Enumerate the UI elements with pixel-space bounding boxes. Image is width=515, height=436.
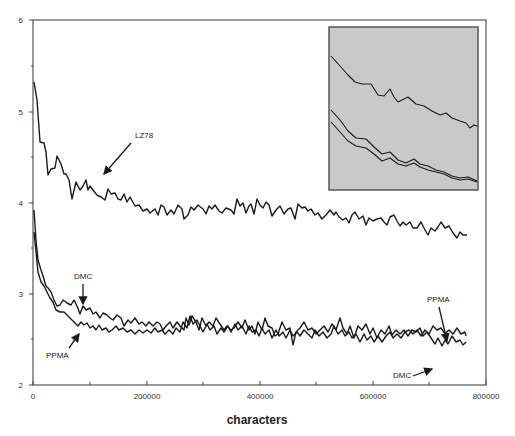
x-tick-label: 0 — [31, 392, 36, 401]
y-tick-label: 2 — [19, 381, 24, 390]
inset-panel — [329, 27, 478, 190]
arrow-dmc-right — [413, 369, 432, 376]
series-ppma — [34, 232, 466, 342]
annotation-dmc-left: DMC — [74, 272, 92, 281]
annotation-lz78: LZ78 — [135, 131, 154, 140]
annotation-dmc-right: DMC — [393, 371, 411, 380]
arrow-ppma-left — [69, 334, 79, 348]
x-axis-label: characters — [227, 413, 288, 427]
x-tick-label: 600000 — [360, 392, 387, 401]
annotation-ppma-right: PPMA — [427, 295, 450, 304]
y-tick-label: 6 — [19, 16, 24, 25]
arrow-ppma-right — [439, 307, 447, 341]
y-tick-label: 4 — [19, 199, 24, 208]
y-tick-label: 5 — [19, 108, 24, 117]
x-tick-label: 800000 — [473, 392, 500, 401]
arrow-lz78 — [104, 143, 131, 174]
x-tick-label: 400000 — [247, 392, 274, 401]
y-tick-label: 3 — [19, 290, 24, 299]
x-tick-label: 200000 — [134, 392, 161, 401]
annotation-ppma-left: PPMA — [46, 351, 69, 360]
chart-canvas: 2 3 4 5 6 0 200000 400000 600000 800000 … — [0, 0, 515, 436]
